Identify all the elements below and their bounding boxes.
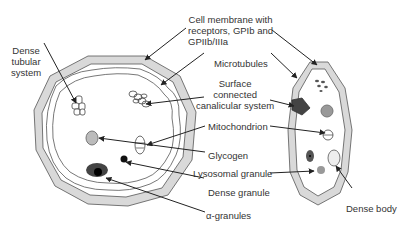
label-line: Dense: [11, 45, 41, 56]
label-line: tubular: [11, 56, 41, 67]
label-line: Surface: [196, 78, 274, 89]
label-dense-tubular: Dense tubular system: [11, 45, 41, 78]
label-line: receptors, GPIb and: [188, 25, 273, 36]
right-alpha-granule: [306, 150, 314, 162]
dense-body: [328, 150, 340, 166]
label-sccs: Surface connected canalicular system: [196, 78, 274, 111]
label-dense-body: Dense body: [346, 203, 397, 214]
label-dense-granule: Dense granule: [208, 187, 270, 198]
right-glycogen-particle: [321, 105, 333, 117]
mitochondrion: [135, 136, 145, 154]
right-mitochondrion: [323, 130, 333, 140]
label-line: GPIIb/IIIa: [188, 36, 273, 47]
label-alpha-granules: α-granules: [206, 210, 251, 221]
label-microtubules: Microtubules: [214, 58, 268, 69]
label-line: canalicular system: [196, 100, 274, 111]
left-platelet-cell: [34, 56, 196, 206]
dense-granule: [121, 156, 128, 163]
label-line: system: [11, 67, 41, 78]
label-cell-membrane: Cell membrane with receptors, GPIb and G…: [188, 14, 273, 47]
lysosomal-granule: [317, 166, 325, 174]
glycogen-particle: [86, 131, 98, 145]
label-glycogen: Glycogen: [208, 150, 248, 161]
label-line: connected: [196, 89, 274, 100]
right-platelet-cell: [288, 62, 352, 205]
alpha-granule: [86, 163, 108, 177]
label-lysosomal: Lysosomal granule: [193, 168, 272, 179]
label-line: Cell membrane with: [188, 14, 273, 25]
label-mitochondrion: Mitochondrion: [208, 121, 268, 132]
